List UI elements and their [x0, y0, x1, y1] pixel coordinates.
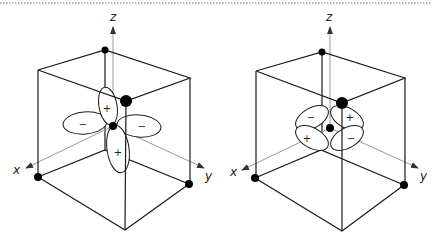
atom-top-front — [120, 95, 132, 107]
atom-bottom-left — [251, 174, 259, 182]
left-cube-diagram: z x y + − − + — [12, 10, 213, 230]
sign-top: + — [103, 103, 111, 114]
sign-upper-left: − — [307, 112, 315, 123]
back-bottom-edges — [255, 150, 404, 185]
x-label: x — [229, 165, 238, 179]
sign-upper-right: + — [346, 112, 354, 123]
atom-top-front — [336, 97, 348, 109]
atom-bottom-left — [34, 173, 42, 181]
sign-bottom: + — [114, 147, 122, 158]
sign-left: − — [79, 119, 87, 130]
z-label: z — [109, 10, 117, 24]
right-cube-diagram: z x y − + + − — [229, 10, 428, 231]
atom-top-back — [102, 47, 109, 54]
atom-center — [109, 122, 117, 130]
atom-bottom-right — [185, 180, 193, 188]
atom-top-back — [319, 49, 326, 56]
y-label: y — [204, 169, 213, 183]
orbital-figure: z x y + − − + z x y − + + − — [0, 0, 444, 241]
atom-center — [326, 124, 334, 132]
sign-lower-left: + — [303, 133, 311, 144]
atom-bottom-right — [400, 181, 408, 189]
y-label: y — [419, 169, 428, 183]
z-label: z — [325, 10, 333, 24]
bottom-front-edges — [38, 177, 189, 230]
bottom-front-edges — [255, 178, 404, 231]
sign-right: − — [138, 121, 146, 132]
x-label: x — [12, 163, 21, 177]
top-face — [38, 50, 190, 101]
sign-lower-right: − — [347, 133, 355, 144]
